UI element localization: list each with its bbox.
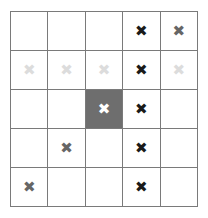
grid-cell-r3-c4[interactable]: ✖ (123, 90, 160, 129)
grid-cell-r4-c1[interactable] (11, 129, 48, 168)
grid-cell-r1-c5[interactable]: ✖ (161, 12, 198, 51)
x-mark-icon: ✖ (135, 63, 148, 78)
grid-cell-r1-c4[interactable]: ✖ (123, 12, 160, 51)
x-mark-icon: ✖ (135, 180, 148, 195)
x-mark-icon: ✖ (135, 102, 148, 117)
grid-cell-r4-c5[interactable] (161, 129, 198, 168)
grid-cell-r2-c2[interactable]: ✖ (48, 51, 85, 90)
grid-cell-r3-c3[interactable]: ✖ (86, 90, 123, 129)
grid-cell-r2-c5[interactable]: ✖ (161, 51, 198, 90)
grid-cell-r5-c2[interactable] (48, 168, 85, 207)
grid-cell-r2-c4[interactable]: ✖ (123, 51, 160, 90)
grid-cell-r1-c1[interactable] (11, 12, 48, 51)
grid-cell-r2-c1[interactable]: ✖ (11, 51, 48, 90)
grid-cell-r5-c5[interactable] (161, 168, 198, 207)
mark-grid: ✖✖✖✖✖✖✖✖✖✖✖✖✖ (10, 11, 198, 207)
x-mark-icon: ✖ (60, 141, 73, 156)
x-mark-icon: ✖ (135, 24, 148, 39)
grid-cell-r5-c3[interactable] (86, 168, 123, 207)
grid-cell-r3-c1[interactable] (11, 90, 48, 129)
grid-cell-r3-c5[interactable] (161, 90, 198, 129)
x-mark-icon: ✖ (135, 141, 148, 156)
x-mark-icon: ✖ (173, 63, 186, 78)
x-mark-icon: ✖ (98, 63, 111, 78)
grid-cell-r4-c2[interactable]: ✖ (48, 129, 85, 168)
x-mark-icon: ✖ (60, 63, 73, 78)
grid-cell-r4-c3[interactable] (86, 129, 123, 168)
grid-cell-r1-c2[interactable] (48, 12, 85, 51)
grid-cell-r2-c3[interactable]: ✖ (86, 51, 123, 90)
grid-cell-r3-c2[interactable] (48, 90, 85, 129)
x-mark-icon: ✖ (23, 180, 36, 195)
grid-cell-r4-c4[interactable]: ✖ (123, 129, 160, 168)
grid-cell-r5-c1[interactable]: ✖ (11, 168, 48, 207)
x-mark-icon: ✖ (98, 102, 111, 117)
grid-cell-r1-c3[interactable] (86, 12, 123, 51)
grid-cell-r5-c4[interactable]: ✖ (123, 168, 160, 207)
x-mark-icon: ✖ (23, 63, 36, 78)
x-mark-icon: ✖ (173, 24, 186, 39)
